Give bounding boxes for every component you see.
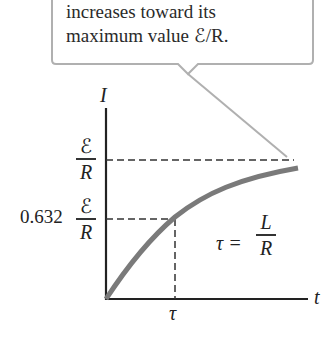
resistance-symbol: R	[80, 222, 92, 242]
rl-current-graph	[0, 0, 334, 342]
y-axis-label: I	[100, 84, 107, 107]
resistance-symbol: R	[80, 162, 92, 182]
y-tick-mid-coefficient: 0.632	[20, 206, 63, 228]
x-axis-label: t	[314, 286, 320, 309]
resistance-symbol: R	[260, 238, 272, 258]
emf-symbol: ℰ	[80, 196, 92, 216]
y-tick-max: ℰ R	[76, 136, 96, 182]
callout-text: increases toward its maximum value ℰ/R.	[66, 0, 316, 48]
fraction-bar	[76, 158, 96, 160]
x-tick-tau: τ	[169, 302, 176, 325]
callout-pointer-line	[188, 74, 287, 157]
inductance-symbol: L	[260, 212, 271, 232]
fraction-bar	[256, 234, 276, 236]
emf-symbol: ℰ	[80, 136, 92, 156]
time-constant-label: τ =	[216, 232, 242, 255]
y-tick-mid: ℰ R	[76, 196, 96, 242]
time-constant-fraction: L R	[256, 212, 276, 258]
callout-line-2: maximum value ℰ/R.	[66, 24, 316, 48]
fraction-bar	[76, 218, 96, 220]
callout-line-1: increases toward its	[66, 0, 316, 24]
